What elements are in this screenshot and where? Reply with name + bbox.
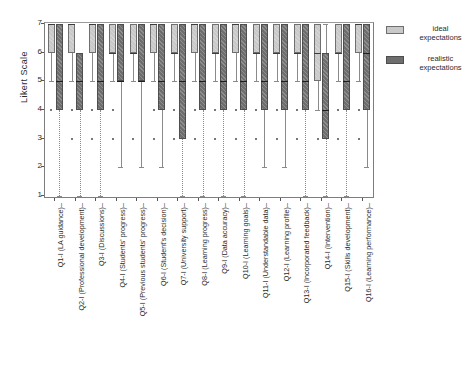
whisker-cap-lower bbox=[364, 167, 369, 168]
x-axis-tick-label: Q14-I (Intervention)– bbox=[324, 203, 332, 323]
x-axis-tick-mark bbox=[136, 198, 137, 201]
median-line bbox=[363, 53, 370, 54]
x-axis-tick-mark bbox=[362, 198, 363, 201]
x-axis-tick-label: Q9-I (Data accuracy)– bbox=[221, 203, 229, 323]
legend-label-ideal: ideal expectations bbox=[409, 24, 472, 42]
legend-label-realistic: realistic expectations bbox=[409, 54, 472, 72]
x-axis-tick-mark bbox=[300, 198, 301, 201]
plot-area bbox=[44, 22, 374, 198]
x-axis-tick-label: Q7-I (University support)– bbox=[180, 203, 188, 323]
x-axis-tick-label: Q1-I (LA guidance)– bbox=[57, 203, 65, 323]
legend-label-ideal-line2: expectations bbox=[419, 33, 461, 42]
x-axis-tick-mark bbox=[157, 198, 158, 201]
whisker-lower bbox=[367, 110, 368, 167]
x-axis-tick-label: Q3-I (Discussions)– bbox=[98, 203, 106, 323]
x-axis-tick-mark bbox=[321, 198, 322, 201]
box-realistic bbox=[45, 23, 373, 197]
x-axis-tick-label: Q16-I (Learning performance)– bbox=[365, 203, 373, 323]
x-axis-tick-label: Q2-I (Professional development)– bbox=[78, 203, 86, 323]
x-axis-tick-mark bbox=[95, 198, 96, 201]
x-axis-tick-mark bbox=[198, 198, 199, 201]
x-axis-tick-label: Q10-I (Learning goals)– bbox=[242, 203, 250, 323]
x-axis-tick-label: Q5-I (Previous students' progress)– bbox=[139, 203, 147, 323]
x-axis-tick-mark bbox=[177, 198, 178, 201]
legend-item-realistic: realistic expectations bbox=[386, 54, 472, 72]
x-axis-tick-label: Q8-I (Learning progress)– bbox=[201, 203, 209, 323]
box-rect bbox=[363, 24, 370, 110]
x-axis-tick-mark bbox=[75, 198, 76, 201]
legend-label-realistic-line2: expectations bbox=[419, 63, 461, 72]
x-axis-tick-mark bbox=[239, 198, 240, 201]
x-axis-tick-label: Q12-I (Learning profile)– bbox=[283, 203, 291, 323]
legend-swatch-realistic-icon bbox=[386, 56, 404, 64]
legend-label-realistic-line1: realistic bbox=[428, 54, 453, 63]
x-axis-tick-label: Q15-I (Skills development)– bbox=[344, 203, 352, 323]
x-axis-tick-mark bbox=[116, 198, 117, 201]
x-axis-tick-mark bbox=[218, 198, 219, 201]
legend-swatch-ideal-icon bbox=[386, 26, 404, 34]
x-axis-tick-label: Q4-I (Students' progress)– bbox=[119, 203, 127, 323]
x-axis-tick-mark bbox=[341, 198, 342, 201]
x-axis-tick-label: Q11-I (Understandable data)– bbox=[262, 203, 270, 323]
x-axis-tick-mark bbox=[54, 198, 55, 201]
x-axis-tick-label: Q6-I (Student's decision)– bbox=[160, 203, 168, 323]
legend-label-ideal-line1: ideal bbox=[433, 24, 449, 33]
x-axis-tick-mark bbox=[280, 198, 281, 201]
legend: ideal expectations realistic expectation… bbox=[386, 24, 472, 84]
boxplot-figure: Likert Scale 1234567 Q1-I (LA guidance)–… bbox=[0, 0, 475, 367]
legend-item-ideal: ideal expectations bbox=[386, 24, 472, 42]
x-axis-tick-mark bbox=[259, 198, 260, 201]
x-axis-tick-label: Q13-I (Incorporated feedback)– bbox=[303, 203, 311, 323]
